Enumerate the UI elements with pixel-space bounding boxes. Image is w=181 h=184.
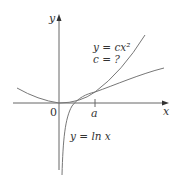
- y-axis-arrow-icon: [57, 14, 62, 21]
- diagram-canvas: y x 0 a y = cx² c = ? y = ln x: [0, 0, 181, 184]
- parabola-unknown-label: c = ?: [93, 53, 120, 65]
- tick-a-label: a: [91, 107, 98, 120]
- log-equation-label: y = ln x: [69, 130, 111, 142]
- y-axis-label: y: [48, 12, 56, 25]
- parabola-equation-label: y = cx²: [92, 41, 130, 53]
- x-axis-label: x: [163, 105, 170, 118]
- log-curve: [62, 68, 164, 175]
- origin-label: 0: [50, 106, 57, 119]
